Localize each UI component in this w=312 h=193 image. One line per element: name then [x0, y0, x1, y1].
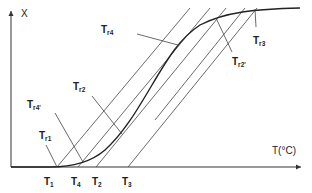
pointer-tr3 — [255, 9, 256, 27]
conversion-curve — [11, 8, 300, 167]
pointer-tr4p — [55, 113, 83, 162]
annotation-tr4: Tr4 — [101, 25, 113, 37]
tick-t2: T2 — [92, 177, 102, 189]
y-axis-label: X — [21, 9, 28, 19]
tick-t4: T4 — [71, 177, 81, 189]
x-axis-label: T(°C) — [272, 146, 296, 156]
diagram-canvas — [0, 0, 312, 193]
diagonal-line-t3 — [128, 8, 257, 167]
annotation-tr3: Tr3 — [253, 36, 265, 48]
tick-t1: T1 — [44, 177, 54, 189]
tick-t3: T3 — [122, 177, 132, 189]
pointer-tr1 — [46, 145, 57, 167]
annotation-tr2-prime: Tr2' — [232, 57, 246, 69]
annotation-tr2: Tr2 — [73, 82, 85, 94]
pointer-tr2 — [92, 96, 122, 134]
annotation-tr1: Tr1 — [39, 131, 51, 143]
diagonal-line-t2 — [96, 8, 226, 167]
pointer-tr2p — [216, 18, 232, 52]
pointer-tr4 — [137, 34, 178, 45]
annotation-tr4-prime: Tr4' — [27, 100, 41, 112]
